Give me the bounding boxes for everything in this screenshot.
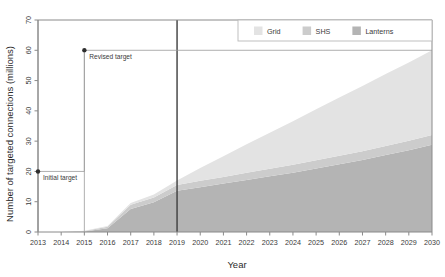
y-tick-label: 30	[24, 137, 33, 145]
x-tick-label: 2030	[424, 238, 440, 247]
x-tick-label: 2023	[262, 238, 278, 247]
x-axis-group: 2013201420152016201720182019202020212022…	[30, 232, 440, 247]
x-tick-label: 2022	[239, 238, 255, 247]
legend-label-lanterns: Lanterns	[365, 27, 393, 36]
stacked-area-group	[38, 50, 432, 232]
legend-swatch-lanterns	[352, 27, 361, 36]
x-tick-label: 2014	[53, 238, 69, 247]
x-tick-label: 2013	[30, 238, 46, 247]
y-tick-label: 10	[24, 198, 33, 206]
legend-swatch-grid	[254, 27, 263, 36]
y-tick-label: 40	[24, 107, 33, 115]
legend-label-grid: Grid	[267, 27, 281, 36]
x-tick-label: 2019	[169, 238, 185, 247]
y-tick-label: 60	[24, 46, 33, 54]
x-tick-label: 2021	[215, 238, 231, 247]
x-tick-label: 2015	[76, 238, 92, 247]
chart-figure: 010203040506070 201320142015201620172018…	[0, 0, 445, 277]
y-tick-label: 70	[24, 16, 33, 24]
revised-target-point	[82, 48, 86, 52]
x-tick-label: 2027	[354, 238, 370, 247]
x-tick-label: 2024	[285, 238, 301, 247]
initial-target-point	[36, 169, 40, 173]
y-axis-group: 010203040506070	[24, 16, 38, 234]
x-tick-label: 2028	[378, 238, 394, 247]
x-axis-title: Year	[227, 259, 246, 270]
area-chart-canvas: 010203040506070 201320142015201620172018…	[0, 0, 445, 277]
x-tick-label: 2016	[100, 238, 116, 247]
initial-target-label: Initial target	[43, 174, 77, 182]
x-tick-label: 2017	[123, 238, 139, 247]
y-tick-label: 50	[24, 77, 33, 85]
x-tick-label: 2018	[146, 238, 162, 247]
y-tick-label: 0	[24, 230, 33, 234]
chart-legend: GridSHSLanterns	[238, 20, 432, 41]
legend-label-shs: SHS	[316, 27, 331, 36]
y-tick-label: 20	[24, 167, 33, 175]
x-tick-label: 2025	[308, 238, 324, 247]
x-tick-label: 2020	[192, 238, 208, 247]
x-tick-label: 2026	[331, 238, 347, 247]
y-axis-title: Number of targeted connections (millions…	[4, 46, 15, 222]
revised-target-label: Revised target	[89, 53, 132, 61]
x-tick-label: 2029	[401, 238, 417, 247]
legend-swatch-shs	[303, 27, 312, 36]
